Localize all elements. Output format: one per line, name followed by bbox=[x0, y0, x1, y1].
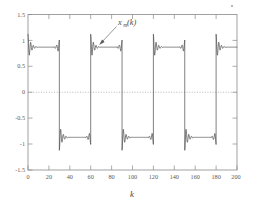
x-tick-label-20: 20 bbox=[46, 173, 52, 180]
annotation-argument: (k) bbox=[127, 18, 137, 27]
annotation-label-xm-k: x m (k) bbox=[117, 18, 137, 28]
y-tick-label-neg1.5: -1.5 bbox=[15, 166, 25, 173]
y-tick-label-0: 0 bbox=[22, 88, 25, 95]
y-tick-label-1: 1 bbox=[22, 37, 25, 44]
y-tick-label-0.5: 0.5 bbox=[17, 62, 25, 69]
scan-artifact-speck bbox=[231, 5, 233, 7]
x-tick-label-180: 180 bbox=[211, 173, 220, 180]
x-tick-label-200: 200 bbox=[231, 173, 240, 180]
x-axis-ticks-bottom bbox=[28, 166, 237, 171]
x-tick-label-120: 120 bbox=[149, 173, 158, 180]
x-tick-label-60: 60 bbox=[88, 173, 94, 180]
x-tick-label-140: 140 bbox=[170, 173, 179, 180]
y-tick-label-1.5: 1.5 bbox=[17, 11, 25, 18]
x-axis-title: k bbox=[130, 189, 135, 199]
figure-container: 1.5 1 0.5 0 -0.5 -1 -1.5 0 20 40 60 80 1… bbox=[0, 0, 258, 209]
x-tick-label-0: 0 bbox=[26, 173, 29, 180]
annotation-arrow bbox=[99, 27, 116, 46]
annotation-variable: x bbox=[117, 18, 122, 27]
y-axis-ticks-left bbox=[28, 15, 33, 171]
x-tick-label-80: 80 bbox=[109, 173, 115, 180]
x-tick-label-100: 100 bbox=[128, 173, 137, 180]
y-axis-ticks-right bbox=[233, 40, 238, 144]
x-tick-label-40: 40 bbox=[67, 173, 73, 180]
y-tick-label-neg1: -1 bbox=[20, 140, 25, 147]
square-wave-gibbs-chart: 1.5 1 0.5 0 -0.5 -1 -1.5 0 20 40 60 80 1… bbox=[0, 0, 258, 209]
x-tick-label-160: 160 bbox=[191, 173, 200, 180]
y-tick-label-neg0.5: -0.5 bbox=[15, 114, 25, 121]
